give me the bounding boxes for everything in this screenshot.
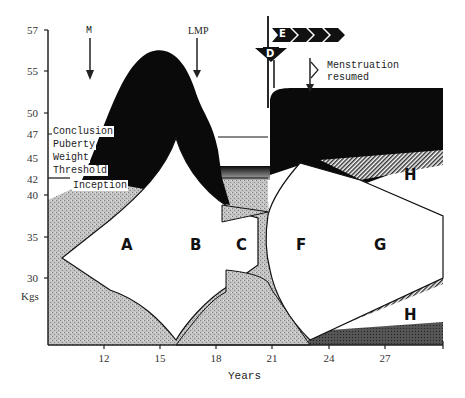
region-a-label: A bbox=[121, 236, 133, 254]
x-axis-title: Years bbox=[228, 370, 261, 382]
x-tick-18: 18 bbox=[204, 352, 228, 364]
m-arrow-icon bbox=[86, 70, 94, 80]
puberty-label: Puberty bbox=[52, 139, 96, 150]
conclusion-label: Conclusion bbox=[52, 126, 114, 137]
d-marker-label: D bbox=[266, 48, 274, 59]
y-tick-50: 50 bbox=[14, 107, 38, 119]
region-c-label: C bbox=[236, 236, 247, 254]
resumed-label: resumed bbox=[327, 72, 369, 83]
x-tick-21: 21 bbox=[260, 352, 284, 364]
y-tick-45: 45 bbox=[14, 152, 38, 164]
region-f-label: F bbox=[296, 236, 306, 254]
menstruation-label: Menstruation bbox=[327, 60, 399, 71]
x-tick-15: 15 bbox=[148, 352, 172, 364]
y-tick-30: 30 bbox=[14, 272, 38, 284]
y-tick-47: 47 bbox=[14, 128, 38, 140]
region-h-lower-label: H bbox=[404, 306, 417, 324]
region-b-label: B bbox=[190, 236, 201, 254]
lmp-arrow-icon bbox=[193, 70, 201, 78]
lmp-label: LMP bbox=[188, 25, 209, 36]
e-marker-label: E bbox=[279, 28, 286, 39]
y-tick-35: 35 bbox=[14, 231, 38, 243]
y-tick-40: 40 bbox=[14, 189, 38, 201]
y-axis-unit: Kgs bbox=[21, 290, 39, 302]
region-h-upper-label: H bbox=[404, 166, 417, 184]
weight-label: Weight bbox=[52, 152, 90, 163]
y-tick-57: 57 bbox=[14, 24, 38, 36]
weight-age-diagram: 57 55 50 47 45 42 40 35 30 Kgs 12 15 18 … bbox=[0, 0, 465, 398]
x-tick-24: 24 bbox=[317, 352, 341, 364]
menstruation-flag-icon bbox=[311, 62, 318, 78]
m-label: M bbox=[86, 25, 92, 36]
y-tick-42: 42 bbox=[14, 173, 38, 185]
inception-label: Inception bbox=[72, 180, 128, 191]
region-g-label: G bbox=[374, 236, 386, 254]
x-tick-12: 12 bbox=[92, 352, 116, 364]
x-tick-27: 27 bbox=[373, 352, 397, 364]
y-tick-55: 55 bbox=[14, 65, 38, 77]
threshold-label: Threshold bbox=[52, 165, 108, 176]
